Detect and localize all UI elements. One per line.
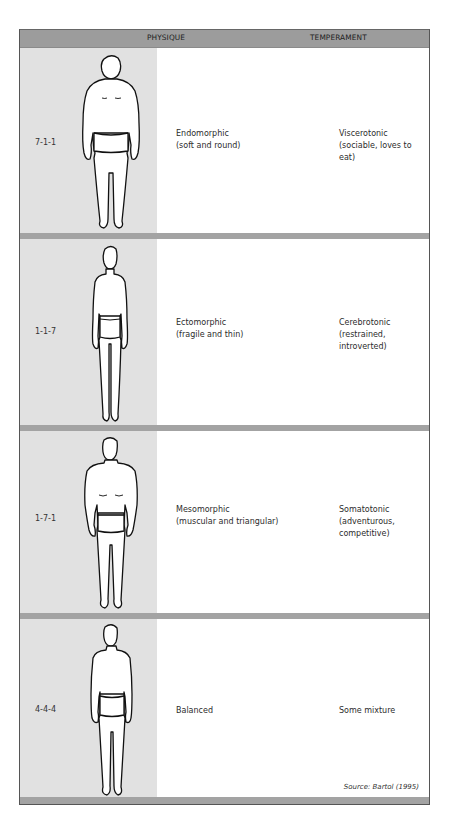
table-row-mesomorph: 1-7-1 Mesomorphic (muscular and triangul… <box>20 431 429 613</box>
temperament-cell: Some mixture <box>339 705 395 717</box>
header-physique: PHYSIQUE <box>147 33 185 42</box>
somatotype-code: 7-1-1 <box>35 138 56 147</box>
source-reference: Bartol (1995) <box>373 783 419 791</box>
table-row-balanced: 4-4-4 Balanced Some mixture Source: Bart… <box>20 619 429 799</box>
endomorph-figure-icon <box>78 53 144 231</box>
physique-cell: Ectomorphic (fragile and thin) <box>176 317 243 341</box>
somatotype-table: PHYSIQUE TEMPERAMENT 7-1-1 Endomorphic (… <box>19 29 430 805</box>
physique-description: (soft and round) <box>176 140 240 152</box>
temperament-cell: Cerebrotonic (restrained, introverted) <box>339 317 429 353</box>
temperament-description: (restrained, introverted) <box>339 329 429 353</box>
mesomorph-figure-icon <box>81 435 141 613</box>
physique-cell: Mesomorphic (muscular and triangular) <box>176 504 278 528</box>
physique-type: Endomorphic <box>176 128 240 140</box>
somatotype-code: 4-4-4 <box>35 705 56 714</box>
temperament-type: Some mixture <box>339 705 395 717</box>
temperament-cell: Somatotonic (adventurous, competitive) <box>339 504 429 540</box>
physique-type: Mesomorphic <box>176 504 278 516</box>
table-bottom-bar <box>20 797 429 804</box>
temperament-type: Somatotonic <box>339 504 429 516</box>
somatotype-code: 1-1-7 <box>35 327 56 336</box>
physique-description: (muscular and triangular) <box>176 516 278 528</box>
source-citation: Source: Bartol (1995) <box>344 783 419 791</box>
temperament-description: (sociable, loves to eat) <box>339 140 429 164</box>
physique-cell: Endomorphic (soft and round) <box>176 128 240 152</box>
physique-cell: Balanced <box>176 705 213 717</box>
temperament-type: Cerebrotonic <box>339 317 429 329</box>
header-temperament: TEMPERAMENT <box>310 33 367 42</box>
temperament-cell: Viscerotonic (sociable, loves to eat) <box>339 128 429 164</box>
temperament-description: (adventurous, competitive) <box>339 516 429 540</box>
physique-type: Ectomorphic <box>176 317 243 329</box>
somatotype-code: 1-7-1 <box>35 514 56 523</box>
table-row-endomorph: 7-1-1 Endomorphic (soft and round) Visce… <box>20 48 429 233</box>
table-row-ectomorph: 1-1-7 Ectomorphic (fragile and thin) Cer… <box>20 239 429 425</box>
physique-description: (fragile and thin) <box>176 329 243 341</box>
balanced-figure-icon <box>86 622 136 798</box>
table-header: PHYSIQUE TEMPERAMENT <box>20 30 429 48</box>
physique-type: Balanced <box>176 705 213 717</box>
source-prefix: Source: <box>344 783 371 791</box>
temperament-type: Viscerotonic <box>339 128 429 140</box>
ectomorph-figure-icon <box>87 244 133 424</box>
